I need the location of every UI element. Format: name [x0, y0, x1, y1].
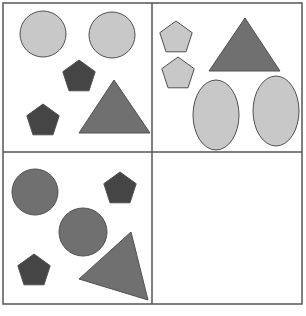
figure-canvas: [0, 0, 306, 316]
light-circle-1-shape: [20, 11, 66, 57]
medium-circle-1-shape: [12, 169, 58, 215]
light-oval-1-shape: [193, 80, 239, 150]
light-circle-2-shape: [89, 12, 135, 58]
medium-circle-2-shape: [59, 208, 107, 256]
light-oval-2-shape: [253, 76, 299, 146]
shape-grid-figure: [0, 0, 306, 316]
